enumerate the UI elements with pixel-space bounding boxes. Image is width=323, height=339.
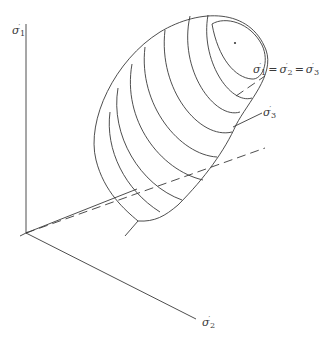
- hydrostatic-axis: [26, 148, 265, 233]
- contour-ring-6: [188, 16, 240, 113]
- equals-sign-2: =: [295, 63, 304, 76]
- stress-point: [234, 42, 236, 44]
- contour-ring-3: [130, 64, 203, 180]
- sigma1-axis-label: σ′1: [12, 24, 25, 38]
- sigma3-leader: [233, 113, 262, 127]
- hydrostatic-axis-label: σ′1=σ′2=σ′3: [253, 63, 319, 77]
- sigma3-subscript: 3: [271, 111, 276, 120]
- sigma1-subscript: 1: [20, 29, 25, 38]
- surface-tail: [125, 221, 138, 236]
- yield-surface-figure: [0, 0, 323, 339]
- sigma2-subscript: 2: [210, 321, 215, 330]
- contour-ring-2: [117, 88, 182, 200]
- hyd-s1-sub: 1: [261, 68, 266, 77]
- clipped-top-text: [55, 0, 170, 3]
- sigma2-axis: [26, 233, 196, 319]
- sigma2-axis-label: σ′2: [202, 316, 215, 330]
- sigma3-axis: [26, 189, 137, 233]
- hyd-s2-sub: 2: [288, 68, 293, 77]
- contour-ring-7: [207, 15, 252, 99]
- hyd-s3-sub: 3: [314, 68, 319, 77]
- equals-sign-1: =: [268, 63, 277, 76]
- surface-outline: [94, 16, 268, 221]
- sigma3-axis-label: σ′3: [263, 106, 276, 120]
